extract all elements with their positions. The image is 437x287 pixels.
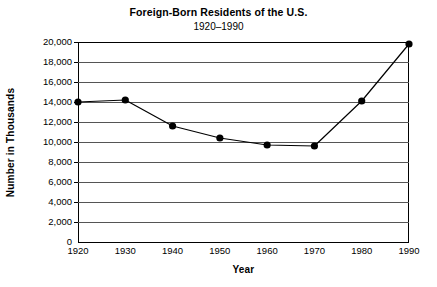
y-axis-tick-label: 2,000 [12,217,72,227]
line-series: 1920: 14,0001930: 14,2001940: 11,6001950… [78,42,409,242]
plot-area: 1920: 14,0001930: 14,2001940: 11,6001950… [78,42,409,242]
y-axis-tick-labels: 02,0004,0006,0008,00010,00012,00014,0001… [10,42,72,242]
x-axis-tick-label: 1970 [289,246,339,256]
x-axis-tick-label: 1920 [53,246,103,256]
data-point-marker: 1970: 9,600 [311,142,318,149]
data-point-marker: 1950: 10,400 [216,134,223,141]
chart-title: Foreign-Born Residents of the U.S. [0,6,437,18]
data-point-marker: 1960: 9,700 [264,141,271,148]
x-axis-tick-label: 1930 [100,246,150,256]
y-axis-tick-label: 6,000 [12,177,72,187]
x-axis-tick-label: 1960 [242,246,292,256]
data-point-marker: 1990: 19,800 [405,40,412,47]
data-point-marker: 1980: 14,100 [358,97,365,104]
x-axis-tick-label: 1950 [195,246,245,256]
data-point-marker: 1930: 14,200 [122,96,129,103]
x-axis-line [78,242,409,243]
y-axis-tick-label: 10,000 [12,137,72,147]
x-axis-tick-label: 1940 [148,246,198,256]
x-axis-tick-label: 1980 [337,246,387,256]
y-axis-tick-label: 20,000 [12,37,72,47]
y-axis-tick-label: 4,000 [12,197,72,207]
y-axis-tick-label: 18,000 [12,57,72,67]
chart-figure: Foreign-Born Residents of the U.S. 1920–… [0,0,437,287]
data-point-marker: 1940: 11,600 [169,122,176,129]
x-axis-tick-labels: 19201930194019501960197019801990 [78,246,409,260]
y-axis-tick-label: 14,000 [12,97,72,107]
y-axis-tick-label: 16,000 [12,77,72,87]
y-axis-tick-label: 12,000 [12,117,72,127]
y-axis-tick-label: 8,000 [12,157,72,167]
data-point-marker: 1920: 14,000 [74,98,81,105]
x-axis-tick-label: 1990 [384,246,434,256]
x-axis-title: Year [78,264,409,275]
series-line [78,44,409,146]
chart-subtitle: 1920–1990 [0,21,437,32]
